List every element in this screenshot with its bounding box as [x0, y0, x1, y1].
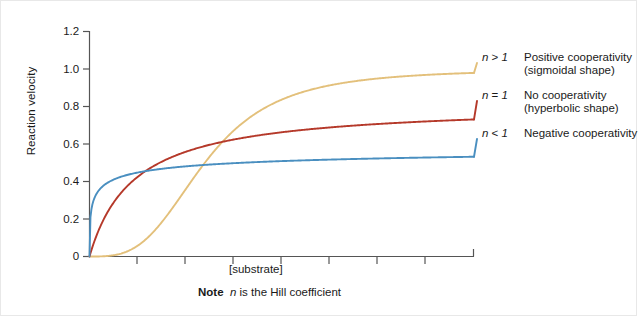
- hill-coefficient-plot: [1, 1, 638, 316]
- y-tick-label-0_6: 0.6: [45, 138, 79, 150]
- annotation-sub-1: (hyperbolic shape): [524, 102, 619, 115]
- annotation-text-1: No cooperativity: [524, 89, 606, 102]
- note-text: Note n is the Hill coefficient: [198, 286, 341, 298]
- annotation-n-greater-than-1: n > 1Positive cooperativity (sigmoidal s…: [482, 51, 632, 76]
- note-rest: is the Hill coefficient: [236, 286, 341, 298]
- annotation-n-less-than-1: n < 1Negative cooperativity: [482, 127, 637, 140]
- y-tick-marks: [83, 32, 89, 257]
- leader-line-1: [474, 101, 477, 119]
- y-tick-label-0: 0: [45, 250, 79, 262]
- annotation-n-equals-1: n = 1No cooperativity (hyperbolic shape): [482, 89, 619, 114]
- annotation-text-0: Positive cooperativity: [524, 51, 632, 64]
- y-axis-title: Reaction velocity: [25, 41, 37, 181]
- leader-line-0: [474, 63, 477, 73]
- x-axis-title: [substrate]: [229, 263, 283, 275]
- annotation-n-label-1: n = 1: [482, 89, 524, 102]
- annotation-n-label-0: n > 1: [482, 51, 524, 64]
- leader-line-2: [474, 139, 477, 157]
- curve-n-1: [90, 157, 475, 257]
- annotation-n-label-2: n < 1: [482, 127, 524, 140]
- y-tick-label-1_2: 1.2: [45, 25, 79, 37]
- y-tick-label-0_4: 0.4: [45, 175, 79, 187]
- y-tick-label-0_2: 0.2: [45, 213, 79, 225]
- data-curves: [90, 63, 478, 257]
- y-tick-label-0_8: 0.8: [45, 100, 79, 112]
- curve-n-1: [90, 73, 475, 257]
- annotation-text-2: Negative cooperativity: [524, 127, 637, 140]
- annotation-sub-0: (sigmoidal shape): [524, 64, 632, 77]
- y-tick-label-1_0: 1.0: [45, 63, 79, 75]
- note-bold-label: Note: [198, 286, 224, 298]
- curve-n-1: [90, 119, 475, 256]
